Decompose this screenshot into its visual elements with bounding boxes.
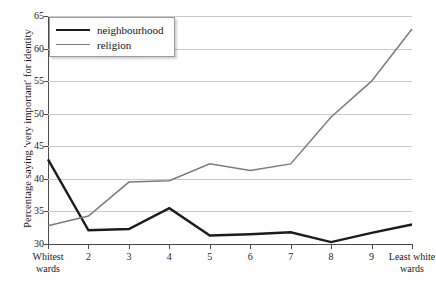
series-line-religion xyxy=(48,29,412,226)
x-tick-4 xyxy=(210,245,211,249)
y-tick-label-55: 55 xyxy=(4,75,44,86)
chart-legend: neighbourhoodreligion xyxy=(49,17,175,57)
y-tick-label-30: 30 xyxy=(4,238,44,249)
y-tick-label-65: 65 xyxy=(4,10,44,21)
x-tick-8 xyxy=(372,245,373,249)
x-tick-3 xyxy=(169,245,170,249)
y-tick-label-50: 50 xyxy=(4,108,44,119)
legend-item-neighbourhood: neighbourhood xyxy=(56,22,164,37)
x-tick-1 xyxy=(88,245,89,249)
legend-swatch-neighbourhood xyxy=(56,29,90,31)
chart-figure: Percentage saying 'very important' for i… xyxy=(0,0,436,292)
legend-label-religion: religion xyxy=(97,39,131,51)
x-tick-label-line1: Least white xyxy=(377,251,436,263)
legend-label-neighbourhood: neighbourhood xyxy=(97,24,164,36)
legend-item-religion: religion xyxy=(56,37,164,52)
y-tick-label-35: 35 xyxy=(4,205,44,216)
x-tick-5 xyxy=(250,245,251,249)
gridline-30 xyxy=(48,244,412,245)
x-tick-label-9: Least whitewards xyxy=(377,251,436,275)
x-tick-0 xyxy=(48,245,49,249)
x-tick-label-line2: wards xyxy=(13,263,83,275)
x-tick-label-line2: wards xyxy=(377,263,436,275)
x-tick-2 xyxy=(129,245,130,249)
x-tick-7 xyxy=(331,245,332,249)
series-line-neighbourhood xyxy=(48,159,412,242)
y-tick-label-40: 40 xyxy=(4,173,44,184)
x-tick-6 xyxy=(291,245,292,249)
legend-swatch-religion xyxy=(56,44,90,45)
x-tick-9 xyxy=(412,245,413,249)
y-tick-label-60: 60 xyxy=(4,43,44,54)
y-tick-label-45: 45 xyxy=(4,140,44,151)
